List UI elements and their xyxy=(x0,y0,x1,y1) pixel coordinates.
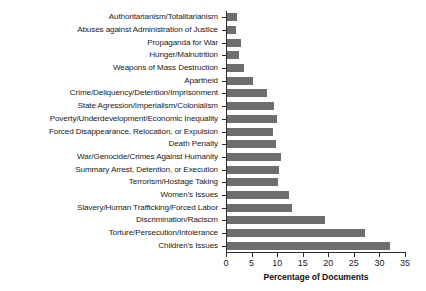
category-label: Death Penalty xyxy=(0,139,218,148)
bar xyxy=(226,153,281,161)
y-axis-tick xyxy=(222,208,226,209)
x-axis-tick xyxy=(252,253,253,257)
category-label: Weapons of Mass Destruction xyxy=(0,63,218,72)
category-axis-labels: Authoritarianism/TotalitarianismAbuses a… xyxy=(0,11,222,252)
category-label: Forced Disappearance, Relocation, or Exp… xyxy=(0,127,218,136)
y-axis-tick xyxy=(222,182,226,183)
category-label: Terrorism/Hostage Taking xyxy=(0,177,218,186)
y-axis-tick xyxy=(222,81,226,82)
y-axis-tick xyxy=(222,157,226,158)
x-axis-tick-label: 5 xyxy=(240,258,264,268)
y-axis-tick xyxy=(222,144,226,145)
bar xyxy=(226,64,244,72)
x-axis-tick-label: 30 xyxy=(367,258,391,268)
y-axis-tick xyxy=(222,106,226,107)
y-axis-tick xyxy=(222,170,226,171)
category-label: Authoritarianism/Totalitarianism xyxy=(0,12,218,21)
x-axis-tick-label: 25 xyxy=(342,258,366,268)
category-label: Discrimination/Raciscm xyxy=(0,215,218,224)
bar xyxy=(226,128,273,136)
bar xyxy=(226,216,325,224)
bar xyxy=(226,191,289,199)
x-axis-tick-label: 15 xyxy=(291,258,315,268)
horizontal-bar-chart: Authoritarianism/TotalitarianismAbuses a… xyxy=(0,0,426,291)
category-label: Poverty/Underdevelopment/Economic Inequa… xyxy=(0,114,218,123)
category-label: Women's Issues xyxy=(0,190,218,199)
y-axis-tick xyxy=(222,17,226,18)
bar xyxy=(226,204,292,212)
y-axis-tick xyxy=(222,43,226,44)
bar xyxy=(226,39,241,47)
category-label: Propaganda for War xyxy=(0,38,218,47)
x-axis-tick xyxy=(379,253,380,257)
category-label: Torture/Persecution/Intolerance xyxy=(0,228,218,237)
plot-area xyxy=(226,11,405,252)
category-label: Children's Issues xyxy=(0,241,218,250)
x-axis-tick-label: 10 xyxy=(265,258,289,268)
category-label: Slavery/Human Trafficking/Forced Labor xyxy=(0,203,218,212)
x-axis-tick xyxy=(328,253,329,257)
bar xyxy=(226,89,267,97)
y-axis-tick xyxy=(222,246,226,247)
category-label: Apartheid xyxy=(0,76,218,85)
y-axis-tick xyxy=(222,220,226,221)
category-label: Hunger/Malnutrition xyxy=(0,50,218,59)
category-label: War/Genocide/Crimes Against Humanity xyxy=(0,152,218,161)
y-axis-tick xyxy=(222,68,226,69)
x-axis-tick-label: 20 xyxy=(316,258,340,268)
category-label: Summary Arrest, Detention, or Execution xyxy=(0,165,218,174)
x-axis-tick-label: 35 xyxy=(393,258,417,268)
category-label: Crime/Deliquency/Detention/Imprisonment xyxy=(0,88,218,97)
bar xyxy=(226,77,253,85)
x-axis-title: Percentage of Documents xyxy=(226,272,406,282)
bar xyxy=(226,51,239,59)
bar xyxy=(226,115,277,123)
x-axis-tick xyxy=(354,253,355,257)
x-axis-tick xyxy=(303,253,304,257)
bar xyxy=(226,242,390,250)
bar xyxy=(226,229,365,237)
bar xyxy=(226,140,276,148)
bar xyxy=(226,178,278,186)
x-axis-tick xyxy=(226,253,227,257)
bar xyxy=(226,166,279,174)
y-axis-tick xyxy=(222,233,226,234)
x-axis-tick xyxy=(405,253,406,257)
x-axis-tick-label: 0 xyxy=(214,258,238,268)
bar xyxy=(226,26,236,34)
y-axis-tick xyxy=(222,30,226,31)
y-axis-tick xyxy=(222,55,226,56)
y-axis-line xyxy=(226,11,227,252)
x-axis-tick xyxy=(277,253,278,257)
y-axis-tick xyxy=(222,195,226,196)
bar xyxy=(226,13,237,21)
y-axis-tick xyxy=(222,119,226,120)
bar xyxy=(226,102,274,110)
category-label: State Agression/Imperialism/Colonialism xyxy=(0,101,218,110)
y-axis-tick xyxy=(222,93,226,94)
y-axis-tick xyxy=(222,132,226,133)
category-label: Abuses against Administration of Justice xyxy=(0,25,218,34)
